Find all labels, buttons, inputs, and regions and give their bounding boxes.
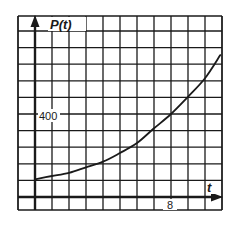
exponential-growth-chart: P(t) t 400 8 [0,0,233,226]
x-tick-label-8: 8 [167,199,173,211]
y-axis-arrow-icon [31,15,40,27]
y-axis-label: P(t) [50,17,72,32]
x-axis-label: t [207,180,212,195]
p-of-t-curve [35,55,220,179]
y-tick-label-400: 400 [39,110,57,122]
